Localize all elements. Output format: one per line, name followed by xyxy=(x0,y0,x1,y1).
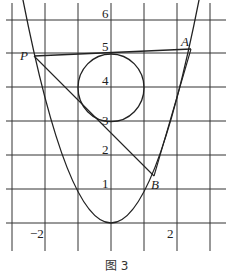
x-tick-neg2: −2 xyxy=(30,226,44,241)
point-P-label: P xyxy=(19,48,28,63)
x-tick-2: 2 xyxy=(167,226,174,241)
figure-caption: 图 3 xyxy=(105,259,128,273)
segment-AB xyxy=(154,49,191,176)
point-A-label: A xyxy=(180,34,189,49)
y-tick-3: 3 xyxy=(102,113,109,128)
y-tick-2: 2 xyxy=(102,142,109,157)
y-tick-4: 4 xyxy=(102,73,109,88)
segment-PB xyxy=(34,56,154,176)
y-tick-6: 6 xyxy=(102,6,109,21)
figure-3: 6 5 4 3 2 1 −2 2 P A B 图 3 xyxy=(0,0,232,277)
y-tick-5: 5 xyxy=(102,39,109,54)
y-tick-1: 1 xyxy=(102,176,109,191)
point-B-label: B xyxy=(151,177,159,192)
